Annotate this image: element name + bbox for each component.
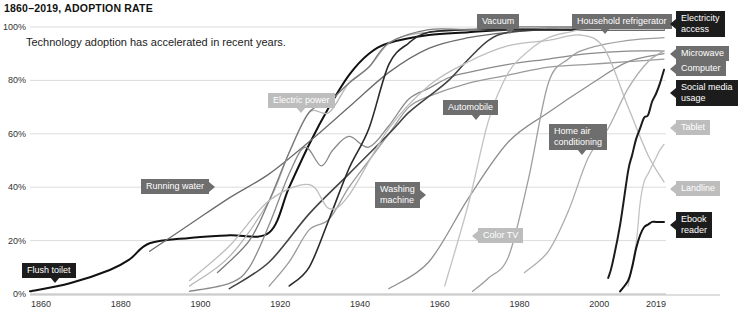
annotation-label-vacuum: Vacuum — [477, 14, 519, 29]
annotation-pointer-icon — [670, 220, 676, 230]
annotation-text: Flush toilet — [27, 265, 71, 275]
annotation-text: Home air conditioning — [554, 126, 602, 147]
series-line-home-air-conditioning — [389, 54, 664, 289]
annotation-pointer-icon — [600, 28, 610, 34]
annotation-text: Microwave — [681, 48, 724, 58]
x-axis-tick-label: 2019 — [646, 299, 666, 309]
annotation-text: Electric power — [273, 95, 330, 105]
annotation-text: Ebook reader — [681, 214, 707, 235]
annotation-label-electric-power: Electric power — [268, 93, 335, 108]
annotation-label-computer: Computer — [676, 61, 726, 76]
annotation-label-electricity-access: Electricity access — [676, 11, 725, 37]
y-axis-tick-label: 20% — [0, 236, 26, 246]
annotation-label-home-air-conditioning: Home air conditioning — [549, 124, 607, 150]
series-line-ebook-reader — [620, 222, 664, 292]
annotation-text: Automobile — [448, 102, 493, 112]
annotation-text: Computer — [681, 63, 721, 73]
annotation-label-washing-machine: Washing machine — [375, 182, 420, 208]
annotation-pointer-icon — [296, 107, 306, 113]
annotation-pointer-icon — [577, 149, 587, 155]
series-line-flush-toilet — [30, 29, 664, 291]
annotation-pointer-icon — [670, 88, 676, 98]
annotation-pointer-icon — [472, 231, 478, 241]
y-axis-tick-label: 0% — [0, 289, 26, 299]
series-line-household-refrigerator — [289, 27, 664, 286]
annotation-label-household-refrigerator: Household refrigerator — [572, 14, 672, 29]
annotation-text: Landline — [681, 183, 715, 193]
x-axis-tick-label: 1940 — [350, 299, 370, 309]
annotation-label-tablet: Tablet — [676, 120, 710, 135]
annotation-text: Household refrigerator — [577, 16, 667, 26]
gridlines — [30, 27, 666, 294]
annotation-label-microwave: Microwave — [676, 46, 729, 61]
annotation-text: Vacuum — [482, 16, 514, 26]
annotation-pointer-icon — [670, 19, 676, 29]
annotation-pointer-icon — [471, 114, 481, 120]
annotation-text: Social media usage — [681, 82, 733, 103]
x-axis-tick-label: 2000 — [589, 299, 609, 309]
annotation-pointer-icon — [670, 184, 676, 194]
annotation-text: Running water — [146, 181, 204, 191]
series-lines — [30, 27, 664, 292]
y-axis-tick-label: 60% — [0, 129, 26, 139]
annotation-pointer-icon — [670, 123, 676, 133]
y-axis-tick-label: 40% — [0, 182, 26, 192]
y-axis-tick-label: 100% — [0, 22, 26, 32]
annotation-pointer-icon — [670, 49, 676, 59]
annotation-text: Washing machine — [380, 184, 415, 205]
x-axis-tick-label: 1860 — [31, 299, 51, 309]
annotation-label-social-media-usage: Social media usage — [676, 80, 738, 106]
annotation-text: Tablet — [681, 122, 705, 132]
annotation-text: Color TV — [483, 230, 518, 240]
series-line-vacuum — [229, 29, 664, 288]
annotation-label-ebook-reader: Ebook reader — [676, 212, 712, 238]
series-line-electric-power — [189, 27, 664, 286]
annotation-pointer-icon — [209, 182, 215, 192]
x-axis-tick-label: 1980 — [509, 299, 529, 309]
annotation-pointer-icon — [505, 28, 515, 34]
annotation-label-color-tv: Color TV — [478, 228, 523, 243]
annotation-pointer-icon — [420, 190, 426, 200]
y-axis-tick-label: 80% — [0, 75, 26, 85]
annotation-label-automobile: Automobile — [443, 100, 498, 115]
x-axis-tick-label: 1920 — [270, 299, 290, 309]
annotation-text: Electricity access — [681, 13, 720, 34]
x-axis-tick-label: 1960 — [430, 299, 450, 309]
x-axis-tick-label: 1880 — [111, 299, 131, 309]
series-line-computer — [524, 51, 664, 273]
annotation-label-flush-toilet: Flush toilet — [22, 263, 76, 278]
annotation-pointer-icon — [50, 277, 60, 283]
annotation-label-landline: Landline — [676, 181, 720, 196]
annotation-label-running-water: Running water — [141, 179, 209, 194]
x-axis-tick-label: 1900 — [190, 299, 210, 309]
annotation-pointer-icon — [670, 64, 676, 74]
